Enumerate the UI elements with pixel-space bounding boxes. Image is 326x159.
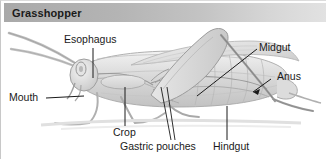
label-gastric-pouches: Gastric pouches (120, 141, 196, 152)
label-hindgut: Hindgut (213, 141, 249, 152)
figure-title: Grasshopper (12, 7, 82, 19)
grasshopper-anatomy-figure: Grasshopper (0, 0, 326, 159)
label-mouth: Mouth (9, 92, 38, 103)
label-anus: Anus (277, 71, 301, 82)
label-midgut: Midgut (259, 42, 291, 53)
label-crop: Crop (113, 127, 136, 138)
label-esophagus: Esophagus (64, 34, 117, 45)
